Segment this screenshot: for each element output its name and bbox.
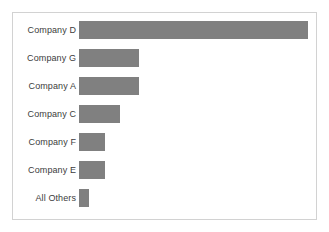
chart-frame: Company DCompany GCompany ACompany CComp… — [12, 12, 317, 220]
bar-track — [79, 49, 308, 67]
bar-fill[interactable] — [79, 105, 120, 123]
bar-category-label: Company A — [13, 77, 76, 95]
bar-row: Company D — [13, 21, 316, 39]
bar-track — [79, 105, 308, 123]
bar-row: Company F — [13, 133, 316, 151]
bar-chart: Company DCompany GCompany ACompany CComp… — [0, 0, 329, 232]
bar-fill[interactable] — [79, 21, 308, 39]
bar-fill[interactable] — [79, 161, 105, 179]
bar-fill[interactable] — [79, 77, 139, 95]
bar-category-label: Company E — [13, 161, 76, 179]
bar-track — [79, 133, 308, 151]
bar-category-label: Company F — [13, 133, 76, 151]
bar-fill[interactable] — [79, 49, 139, 67]
plot-area: Company DCompany GCompany ACompany CComp… — [13, 13, 316, 219]
bar-category-label: All Others — [13, 189, 76, 207]
bar-row: Company G — [13, 49, 316, 67]
bar-row: Company C — [13, 105, 316, 123]
bar-track — [79, 21, 308, 39]
bar-row: All Others — [13, 189, 316, 207]
bar-fill[interactable] — [79, 133, 105, 151]
bar-category-label: Company G — [13, 49, 76, 67]
bar-fill[interactable] — [79, 189, 89, 207]
bar-track — [79, 161, 308, 179]
bar-row: Company E — [13, 161, 316, 179]
bar-category-label: Company D — [13, 21, 76, 39]
bar-track — [79, 189, 308, 207]
bar-track — [79, 77, 308, 95]
bar-row: Company A — [13, 77, 316, 95]
bar-category-label: Company C — [13, 105, 76, 123]
